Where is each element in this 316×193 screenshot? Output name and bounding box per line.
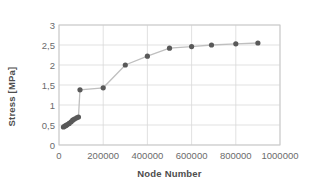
x-tick-label: 0	[56, 150, 61, 161]
x-axis-title: Node Number	[59, 168, 280, 179]
x-tick-label: 600000	[176, 150, 208, 161]
x-tick-label: 1000000	[262, 150, 299, 161]
x-tick-label: 400000	[132, 150, 164, 161]
x-tick-label: 200000	[87, 150, 119, 161]
plot-area	[0, 0, 316, 193]
stress-vs-node-number-chart: Stress [MPa] 00,511,522,53 0200000400000…	[0, 0, 316, 193]
x-tick-label: 800000	[220, 150, 252, 161]
